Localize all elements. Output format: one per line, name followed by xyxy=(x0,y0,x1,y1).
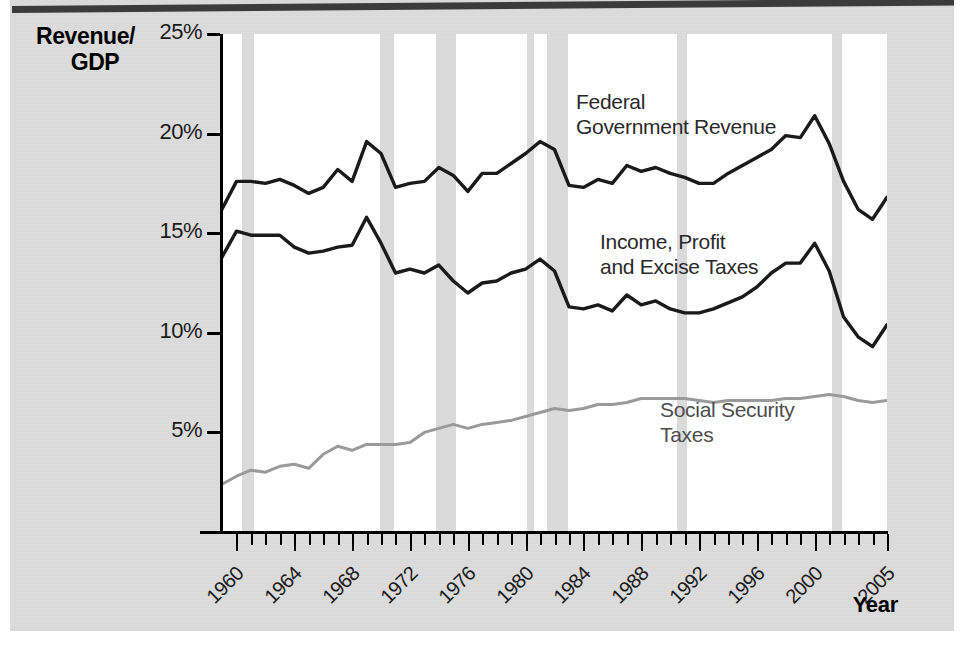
x-axis-tick-minor xyxy=(395,534,397,545)
x-axis-tick-label: 1976 xyxy=(434,562,480,608)
x-axis-tick-minor xyxy=(771,534,773,545)
x-axis-tick-label: 1980 xyxy=(492,562,538,608)
x-axis-tick-minor xyxy=(786,534,788,545)
x-axis-tick-minor xyxy=(829,534,831,545)
x-axis-tick-minor xyxy=(381,534,383,545)
x-axis-tick-minor xyxy=(800,534,802,545)
x-axis-tick-minor xyxy=(569,534,571,545)
x-axis-tick-label: 1992 xyxy=(665,562,711,608)
x-axis-tick-minor xyxy=(540,534,542,545)
x-axis-tick-minor xyxy=(453,534,455,545)
x-axis-tick-minor xyxy=(714,534,716,545)
x-axis-tick-minor xyxy=(728,534,730,545)
plot-area xyxy=(222,34,887,532)
x-axis-tick-minor xyxy=(323,534,325,545)
y-axis-line xyxy=(220,34,223,534)
x-axis-tick-label: 1964 xyxy=(260,562,306,608)
y-axis-tick xyxy=(207,232,220,235)
x-axis-title: Year xyxy=(853,592,898,618)
y-axis-tick-label: 20% xyxy=(159,119,202,145)
x-axis-tick-minor xyxy=(338,534,340,545)
y-axis-tick-labels: 5%10%15%20%25% xyxy=(120,0,202,560)
y-axis-tick-label: 25% xyxy=(159,19,202,45)
x-axis-tick-label: 2000 xyxy=(781,562,827,608)
x-axis-tick-minor xyxy=(367,534,369,545)
x-axis-tick-label: 1968 xyxy=(318,562,364,608)
x-axis-tick-label: 1988 xyxy=(607,562,653,608)
x-axis-tick-minor xyxy=(497,534,499,545)
page-bottom-margin xyxy=(0,631,960,647)
x-axis-tick-minor xyxy=(844,534,846,545)
y-axis-tick xyxy=(207,133,220,136)
x-axis-tick-label: 1996 xyxy=(723,562,769,608)
x-axis-tick-minor xyxy=(670,534,672,545)
x-axis-tick-minor xyxy=(424,534,426,545)
y-axis-tick xyxy=(207,332,220,335)
y-axis-tick xyxy=(207,431,220,434)
x-axis-tick-minor xyxy=(265,534,267,545)
x-axis-tick-label: 1960 xyxy=(202,562,248,608)
x-axis-tick-minor xyxy=(612,534,614,545)
annotation-income-taxes: Income, Profit and Excise Taxes xyxy=(600,230,758,280)
x-axis-tick-minor xyxy=(439,534,441,545)
x-axis-tick-minor xyxy=(251,534,253,545)
x-axis-tick-minor xyxy=(685,534,687,545)
annotation-federal-revenue: Federal Government Revenue xyxy=(576,90,776,140)
chart-figure: Revenue/ GDP 5%10%15%20%25% 196019641968… xyxy=(0,0,960,647)
x-axis-tick-label: 1984 xyxy=(549,562,595,608)
y-axis-tick-label: 15% xyxy=(159,218,202,244)
x-axis-tick-minor xyxy=(555,534,557,545)
line-income-profit-excise xyxy=(222,217,887,346)
y-axis-tick-label: 10% xyxy=(159,318,202,344)
x-axis-tick-labels: 1960196419681972197619801984198819921996… xyxy=(0,548,960,618)
x-axis-tick-minor xyxy=(656,534,658,545)
annotation-social-security: Social Security Taxes xyxy=(660,398,794,448)
x-axis-tick-minor xyxy=(627,534,629,545)
x-axis-tick-minor xyxy=(309,534,311,545)
y-axis-tick xyxy=(207,33,220,36)
x-axis-tick-label: 1972 xyxy=(376,562,422,608)
x-axis-tick-minor xyxy=(280,534,282,545)
x-axis-tick-minor xyxy=(873,534,875,545)
x-axis-tick-minor xyxy=(742,534,744,545)
series-lines xyxy=(222,34,887,532)
x-axis-tick-minor xyxy=(482,534,484,545)
y-axis-tick-label: 5% xyxy=(171,417,202,443)
line-federal-revenue xyxy=(222,116,887,220)
x-axis-tick-minor xyxy=(598,534,600,545)
x-axis-tick-minor xyxy=(511,534,513,545)
x-axis-tick-minor xyxy=(858,534,860,545)
